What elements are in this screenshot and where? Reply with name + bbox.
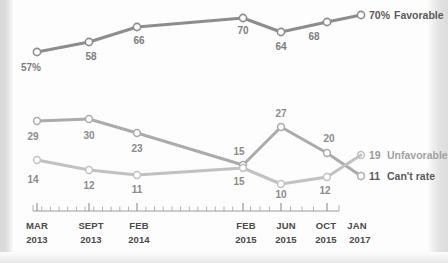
favorable-value-label: 70: [237, 25, 249, 36]
favorable-legend-name: Favorable: [394, 9, 444, 21]
unfavorable-value-label: 27: [275, 108, 287, 119]
favorable-value-label: 64: [275, 41, 287, 52]
cant-rate-value-label: 15: [233, 176, 245, 187]
unfavorable-legend-value: 19: [369, 149, 381, 161]
x-tick-label-year: 2017: [349, 234, 371, 245]
favorable-value-label: 58: [85, 51, 97, 62]
unfavorable-line: [37, 119, 361, 176]
x-tick-label-year: 2014: [128, 234, 150, 245]
cant-rate-value-label: 12: [83, 180, 95, 191]
x-tick-label-month: FEB: [236, 220, 255, 231]
cant-rate-point: [324, 174, 331, 181]
cant-rate-value-label: 10: [275, 189, 287, 200]
x-tick-label-month: SEPT: [78, 220, 103, 231]
x-tick-label-month: OCT: [316, 220, 336, 231]
unfavorable-value-label: 23: [131, 143, 143, 154]
cant-rate-point: [278, 181, 285, 188]
x-axis: MAR SEPT FEB FEB JUN OCT JAN 2013 2013 2…: [26, 203, 371, 245]
x-tick-label-year: 2015: [315, 234, 337, 245]
line-chart: 57% 58 66 70 64 68 70% Favorable 29: [0, 0, 448, 263]
favorable-point-last: [357, 11, 364, 18]
x-axis-major-ticks: [37, 203, 327, 211]
cant-rate-value-label: 11: [132, 184, 143, 195]
x-tick-label-month: MAR: [26, 220, 48, 231]
unfavorable-point: [34, 118, 41, 125]
favorable-value-label: 68: [308, 31, 320, 42]
x-tick-label-year: 2013: [26, 234, 48, 245]
unfavorable-point: [278, 124, 285, 131]
cant-rate-point: [86, 167, 93, 174]
favorable-point: [323, 18, 330, 25]
cant-rate-value-label: 14: [27, 174, 39, 185]
chart-page: 57% 58 66 70 64 68 70% Favorable 29: [0, 0, 448, 263]
favorable-point: [33, 48, 40, 55]
unfavorable-point: [86, 116, 93, 123]
x-axis-minor-ticks: [33, 205, 339, 211]
x-tick-label-month: JAN: [347, 220, 366, 231]
unfavorable-legend-name: Unfavorable: [387, 149, 448, 161]
x-tick-label-month: JUN: [276, 220, 295, 231]
favorable-legend-value: 70%: [369, 9, 391, 21]
favorable-point: [277, 28, 284, 35]
x-tick-label-year: 2015: [275, 234, 297, 245]
unfavorable-value-label: 20: [323, 133, 335, 144]
favorable-value-label: 57%: [21, 62, 41, 73]
cant-rate-point: [240, 165, 247, 172]
cant-rate-value-label: 12: [319, 185, 331, 196]
favorable-point: [133, 23, 140, 30]
chart-svg: 57% 58 66 70 64 68 70% Favorable 29: [0, 0, 448, 263]
cant-rate-legend-value: 11: [369, 170, 380, 182]
x-tick-label-year: 2015: [235, 234, 257, 245]
unfavorable-value-label: 15: [233, 146, 245, 157]
unfavorable-point: [324, 150, 331, 157]
cant-rate-legend-name: Can't rate: [387, 170, 435, 182]
x-tick-label-year: 2013: [80, 234, 102, 245]
cant-rate-point-last: [358, 173, 365, 180]
x-tick-label-month: FEB: [129, 220, 148, 231]
cant-rate-point: [134, 172, 141, 179]
unfavorable-point: [134, 130, 141, 137]
favorable-point: [85, 38, 92, 45]
unfavorable-value-label: 30: [83, 130, 95, 141]
unfavorable-value-label: 29: [27, 131, 39, 142]
cant-rate-point: [34, 157, 41, 164]
favorable-value-label: 66: [133, 35, 145, 46]
series-favorable: 57% 58 66 70 64 68 70% Favorable: [21, 9, 444, 73]
favorable-point: [239, 14, 246, 21]
